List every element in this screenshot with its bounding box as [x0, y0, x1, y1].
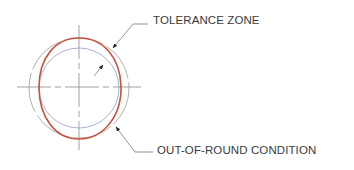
out-of-round-label: OUT-OF-ROUND CONDITION — [157, 144, 316, 156]
tolerance-zone-label: TOLERANCE ZONE — [153, 14, 260, 26]
out-of-round-profile — [39, 38, 121, 139]
centerlines — [17, 25, 141, 150]
out-of-round-leader — [116, 127, 153, 152]
tolerance-zone-leader — [94, 24, 148, 76]
